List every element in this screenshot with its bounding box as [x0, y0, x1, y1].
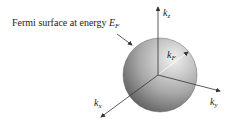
kf-label: kF	[167, 50, 176, 62]
fermi-sphere	[123, 38, 197, 112]
ky-label: ky	[210, 97, 218, 109]
kz-label: kz	[163, 8, 170, 20]
kx-label: kx	[94, 98, 102, 110]
caption-pointer-arrow	[117, 34, 132, 45]
caption-label: Fermi surface at energy EF	[12, 18, 119, 30]
